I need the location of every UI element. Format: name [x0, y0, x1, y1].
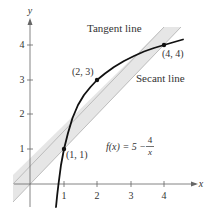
svg-text:f(x) = 5 −: f(x) = 5 − [106, 141, 146, 153]
point-label-1-1: (1, 1) [66, 149, 88, 161]
y-axis-label: y [27, 5, 33, 16]
point-4-4 [162, 43, 166, 47]
y-tick-label: 4 [20, 39, 25, 50]
x-tick-label: 2 [95, 190, 100, 201]
x-tick-label: 3 [129, 190, 134, 201]
y-tick-label: 3 [20, 74, 25, 85]
y-tick-label: 2 [20, 108, 25, 119]
point-2-3 [95, 78, 99, 82]
svg-text:4: 4 [148, 135, 153, 145]
point-label-4-4: (4, 4) [162, 48, 184, 60]
secant-line-label: Secant line [136, 72, 185, 84]
x-tick-label: 4 [162, 190, 167, 201]
tangent-line [13, 27, 164, 184]
x-axis-label: x [198, 178, 204, 189]
figure: 1 2 3 4 1 2 3 4 x y (1, 1) (2, 3) (4, 4)… [0, 0, 206, 211]
y-axis-arrow-icon [28, 18, 33, 25]
tangent-line-label: Tangent line [87, 22, 142, 34]
y-tick-label: 1 [20, 143, 25, 154]
x-tick-label: 1 [62, 190, 67, 201]
function-label: f(x) = 5 − 4 x [106, 135, 154, 157]
secant-line [13, 27, 181, 202]
point-label-2-3: (2, 3) [72, 66, 94, 78]
x-axis-arrow-icon [191, 182, 198, 187]
svg-text:x: x [147, 147, 152, 157]
